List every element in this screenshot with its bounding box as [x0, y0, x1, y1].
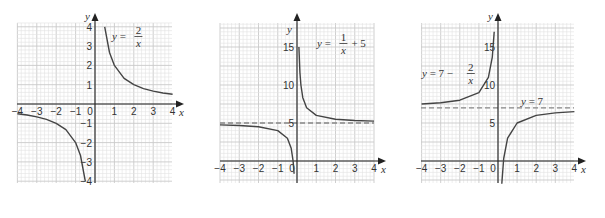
- y-axis-arrow-icon: [92, 13, 99, 21]
- x-tick-label: 4: [170, 106, 176, 117]
- y-tick-label: 3: [86, 41, 92, 52]
- graph-reciprocal-1-over-x-plus-5: xy−4−3−2−10123415105y = 1x+ 5: [214, 13, 386, 183]
- x-tick-label: −2: [454, 163, 466, 174]
- x-tick-label: 0: [490, 163, 496, 174]
- x-tick-label: 3: [352, 163, 358, 174]
- x-tick-label: −2: [253, 163, 265, 174]
- y-tick-label: −1: [81, 118, 93, 129]
- x-tick-label: −1: [473, 163, 485, 174]
- x-tick-label: 1: [112, 106, 118, 117]
- x-tick-label: −3: [234, 163, 246, 174]
- graph-7-minus-2-over-x: xy−4−3−2−10123415105y = 7 − 2xy = 7: [416, 10, 586, 184]
- graph-reciprocal-2-over-x: xy−4−3−2−1012344321−1−2−3−4y = 2x: [12, 10, 184, 187]
- x-tick-label: 3: [553, 163, 559, 174]
- x-tick-label: −4: [214, 163, 226, 174]
- y-tick-label: 2: [86, 60, 92, 71]
- equation-label: y = 2x: [111, 24, 142, 49]
- y-tick-label: 5: [288, 118, 294, 129]
- equation-numerator: 2: [136, 24, 142, 36]
- x-axis-label: x: [580, 163, 586, 175]
- x-tick-label: 4: [572, 163, 578, 174]
- y-tick-label: 4: [86, 22, 92, 33]
- x-tick-label: 2: [131, 106, 137, 117]
- x-tick-label: −4: [416, 163, 428, 174]
- x-axis-label: x: [178, 106, 184, 118]
- x-tick-label: −2: [50, 106, 62, 117]
- y-tick-label: 15: [283, 42, 295, 53]
- y-tick-label: −4: [81, 176, 93, 187]
- x-tick-label: −3: [435, 163, 447, 174]
- x-tick-label: −3: [31, 106, 43, 117]
- x-tick-label: 3: [150, 106, 156, 117]
- y-tick-label: 5: [489, 118, 495, 129]
- equation-denominator: x: [135, 37, 141, 49]
- equation-denominator: x: [340, 44, 346, 56]
- x-tick-label: −1: [70, 106, 82, 117]
- x-tick-label: 1: [313, 163, 319, 174]
- x-tick-label: 1: [514, 163, 520, 174]
- x-tick-label: 2: [533, 163, 539, 174]
- x-tick-label: −4: [12, 106, 24, 117]
- equation-denominator: x: [467, 74, 473, 86]
- svg-text:y =: y =: [316, 37, 331, 49]
- x-axis-label: x: [380, 163, 386, 175]
- asymptote-label: y = 7: [520, 95, 544, 107]
- y-axis-arrow-icon: [294, 13, 301, 21]
- x-tick-label: 0: [87, 106, 93, 117]
- y-tick-label: 10: [283, 80, 295, 91]
- equation-numerator: 2: [468, 61, 474, 73]
- x-tick-label: 2: [333, 163, 339, 174]
- y-tick-label: −2: [81, 138, 93, 149]
- svg-text:y =: y =: [111, 30, 126, 42]
- y-axis-label: y: [84, 10, 90, 22]
- y-axis-label: y: [286, 23, 292, 35]
- equation-numerator: 1: [341, 31, 347, 43]
- y-axis-arrow-icon: [495, 13, 502, 21]
- graphs-figure: xy−4−3−2−1012344321−1−2−3−4y = 2x xy−4−3…: [0, 0, 605, 218]
- x-tick-label: −1: [272, 163, 284, 174]
- y-axis-label: y: [487, 10, 493, 22]
- x-tick-label: 4: [371, 163, 377, 174]
- y-tick-label: 1: [86, 80, 92, 91]
- svg-text:y = 7 −: y = 7 −: [421, 67, 453, 79]
- equation-constant: + 5: [351, 37, 366, 49]
- function-curve: [17, 114, 85, 182]
